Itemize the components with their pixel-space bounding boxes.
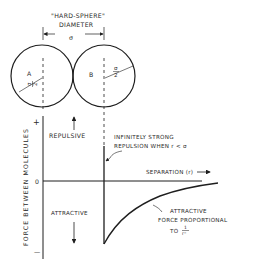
attraction-fraction: 1 rⁿ (182, 225, 189, 236)
radius-a-fraction: σ 2 (26, 81, 38, 87)
x-axis-label: SEPARATION (r) (146, 169, 193, 175)
attraction-note-line2: FORCE PROPORTIONAL (158, 217, 228, 223)
svg-text:2: 2 (32, 82, 38, 86)
y-axis-zero: 0 (35, 178, 39, 185)
attractive-label: ATTRACTIVE (51, 210, 88, 216)
repulsion-leader (106, 151, 122, 161)
hard-sphere-force-diagram: "HARD-SPHERE" DIAMETER σ A σ 2 B σ 2 + 0… (0, 0, 261, 271)
hard-sphere-label: "HARD-SPHERE" (51, 12, 105, 19)
attraction-note-line3: TO (169, 228, 179, 234)
repulsive-label: REPULSIVE (49, 132, 86, 139)
repulsion-note-line1: INFINITELY STRONG (114, 134, 174, 140)
radius-b-fraction: σ 2 (113, 65, 119, 78)
sigma-diameter-label: σ (69, 34, 73, 41)
svg-text:2: 2 (114, 72, 118, 78)
svg-text:rⁿ: rⁿ (182, 231, 186, 236)
molecule-b-label: B (89, 71, 94, 78)
diameter-label: DIAMETER (59, 21, 94, 28)
attraction-leader (153, 205, 162, 212)
molecule-a-circle (11, 45, 73, 107)
attraction-note-line1: ATTRACTIVE (170, 208, 207, 214)
y-axis-plus: + (33, 118, 40, 127)
svg-text:1: 1 (184, 225, 187, 230)
y-axis-label: FORCE BETWEEN MOLECULES (22, 128, 29, 246)
repulsion-note-line2: REPULSION WHEN r < σ (114, 143, 187, 149)
radius-b-line (105, 66, 133, 78)
molecule-a-label: A (27, 70, 32, 77)
y-axis-minus: — (34, 248, 41, 255)
svg-text:σ: σ (114, 65, 118, 71)
